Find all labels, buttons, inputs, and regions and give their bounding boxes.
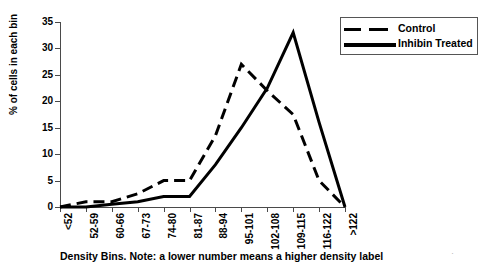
- x-tick: [241, 207, 242, 212]
- dashed-line-swatch-icon: [344, 23, 396, 35]
- x-axis-caption: Density Bins. Note: a lower number means…: [60, 250, 360, 262]
- x-tick-label: 102-108: [271, 213, 281, 250]
- x-tick-label: 74-80: [168, 213, 178, 239]
- y-tick-label: 25: [42, 70, 53, 80]
- legend-label-inhibin-treated: Inhibin Treated: [398, 38, 473, 49]
- x-tick: [267, 207, 268, 212]
- legend-item-inhibin-treated: Inhibin Treated: [344, 36, 473, 51]
- x-tick-label: 109-115: [297, 213, 307, 249]
- x-tick-label: >122: [349, 213, 359, 236]
- x-tick-label: 116-122: [323, 213, 333, 249]
- x-tick-label: 52-59: [90, 213, 100, 239]
- x-tick: [190, 207, 191, 212]
- x-tick: [319, 207, 320, 212]
- chart-legend: Control Inhibin Treated: [340, 17, 478, 55]
- scan-artifact-mark: ·: [451, 248, 454, 258]
- y-tick-label: 0: [47, 202, 53, 212]
- x-axis-line: [60, 207, 345, 208]
- x-tick-label: 67-73: [142, 213, 152, 239]
- y-tick-label: 20: [42, 96, 53, 106]
- y-axis-title: % of cells in each bin: [8, 14, 19, 115]
- series-plot: [60, 22, 345, 207]
- x-tick-label: 60-66: [116, 213, 126, 239]
- x-tick: [215, 207, 216, 212]
- legend-item-control: Control: [344, 21, 473, 36]
- x-tick: [112, 207, 113, 212]
- x-tick-label: <52: [64, 213, 74, 230]
- series-line-control: [60, 64, 345, 207]
- x-tick: [164, 207, 165, 212]
- legend-label-control: Control: [398, 23, 435, 34]
- series-line-inhibin-treated: [60, 33, 345, 207]
- y-tick-label: 30: [42, 43, 53, 53]
- x-tick: [293, 207, 294, 212]
- plot-area: 05101520253035 <5252-5960-6667-7374-8081…: [60, 22, 345, 207]
- x-tick-label: 95-101: [245, 213, 255, 244]
- y-tick-label: 5: [47, 176, 53, 186]
- y-tick-label: 15: [42, 123, 53, 133]
- y-tick-label: 10: [42, 149, 53, 159]
- solid-line-swatch-icon: [344, 38, 396, 50]
- x-tick-label: 81-87: [194, 213, 204, 239]
- y-tick-label: 35: [42, 17, 53, 27]
- x-tick-label: 88-94: [219, 213, 229, 239]
- x-tick: [345, 207, 346, 212]
- x-tick: [138, 207, 139, 212]
